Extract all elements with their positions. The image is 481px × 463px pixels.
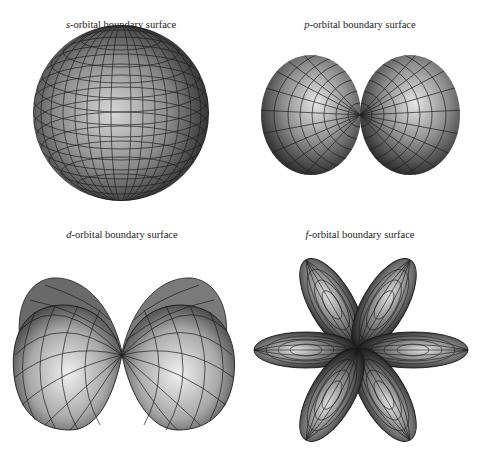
f-orbital-lobes bbox=[254, 249, 468, 451]
p-orbital-title-text: -orbital boundary surface bbox=[310, 19, 416, 30]
s-orbital-sphere bbox=[33, 25, 209, 201]
d-orbital-lobes bbox=[13, 278, 234, 430]
f-orbital-title-text: -orbital boundary surface bbox=[308, 229, 414, 240]
d-orbital-title: d-orbital boundary surface bbox=[66, 229, 177, 240]
s-orbital-title-text: -orbital boundary surface bbox=[70, 19, 176, 30]
s-orbital-title: s-orbital boundary surface bbox=[66, 19, 176, 30]
f-orbital-title: f-orbital boundary surface bbox=[305, 229, 414, 240]
p-orbital-lobes bbox=[255, 40, 465, 190]
p-orbital-title: p-orbital boundary surface bbox=[304, 19, 415, 30]
d-orbital-title-text: -orbital boundary surface bbox=[72, 229, 178, 240]
